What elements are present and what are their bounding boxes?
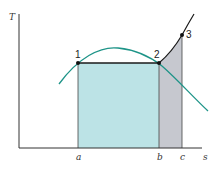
state-point-3 [180, 33, 184, 37]
ts-diagram: 1 2 3 T s a b c [0, 0, 215, 172]
tick-label-a: a [76, 152, 81, 162]
y-axis-label: T [9, 12, 16, 22]
state-label-1: 1 [75, 49, 81, 60]
state-label-3: 3 [186, 29, 192, 40]
state-label-2: 2 [154, 49, 160, 60]
state-point-2 [157, 61, 161, 65]
state-point-1 [76, 61, 80, 65]
area-under-1-2 [78, 63, 159, 148]
tick-label-c: c [180, 152, 185, 162]
x-axis-label: s [203, 152, 208, 162]
tick-label-b: b [157, 152, 163, 162]
